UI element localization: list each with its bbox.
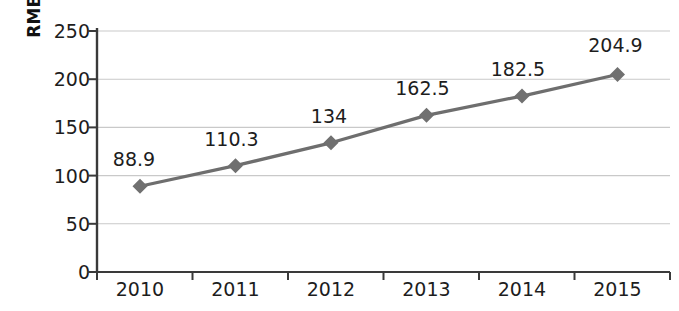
- data-point-marker: [419, 108, 434, 123]
- series-line: [140, 74, 618, 186]
- x-axis-tick-labels: 201020112012201320142015: [0, 280, 679, 308]
- data-point-marker: [514, 89, 529, 104]
- x-axis-tick-label: 2010: [95, 280, 185, 299]
- axis-lines: [87, 28, 670, 272]
- x-axis-tick-label: 2011: [190, 280, 280, 299]
- plot-area: [0, 0, 679, 311]
- data-point-marker: [228, 158, 243, 173]
- x-axis-tick-label: 2014: [477, 280, 567, 299]
- x-axis-tick-label: 2012: [286, 280, 376, 299]
- x-axis-tick-label: 2013: [381, 280, 471, 299]
- y-axis-tick-marks: [88, 31, 97, 272]
- data-point-marker: [132, 179, 147, 194]
- x-axis-tick-label: 2015: [572, 280, 662, 299]
- line-chart: RMB billions 050100150200250 88.9110.313…: [0, 0, 679, 311]
- x-axis-tick-marks: [97, 272, 670, 280]
- data-point-marker: [323, 135, 338, 150]
